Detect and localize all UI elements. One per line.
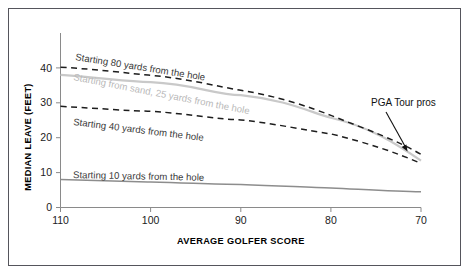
y-tick-label-40: 40 (40, 62, 52, 74)
chart-svg: 0 10 20 30 40 110 100 90 80 70 AVERAGE G… (0, 0, 469, 274)
x-axis-title: AVERAGE GOLFER SCORE (177, 236, 305, 246)
series-line-40-yards (61, 106, 422, 163)
series-line-10-yards (61, 180, 422, 192)
x-tick-label-110: 110 (52, 214, 69, 226)
x-tick-label-70: 70 (415, 214, 427, 226)
annotation-label-pga-tour-pros: PGA Tour pros (371, 97, 436, 108)
y-axis-title: MEDIAN LEAVE (FEET) (23, 83, 33, 191)
chart-figure: 0 10 20 30 40 110 100 90 80 70 AVERAGE G… (0, 0, 469, 274)
x-tick-label-100: 100 (142, 214, 160, 226)
y-tick-label-20: 20 (40, 131, 52, 143)
x-tick-label-80: 80 (325, 214, 337, 226)
series-label-40-yards: Starting 40 yards from the hole (73, 116, 205, 143)
chart-plot-area: 0 10 20 30 40 110 100 90 80 70 AVERAGE G… (0, 0, 469, 274)
x-tick-label-90: 90 (235, 214, 247, 226)
y-tick-label-10: 10 (40, 166, 52, 178)
y-tick-label-30: 30 (40, 96, 52, 108)
y-tick-label-0: 0 (46, 201, 52, 213)
annotation-arrow-line (386, 112, 406, 148)
